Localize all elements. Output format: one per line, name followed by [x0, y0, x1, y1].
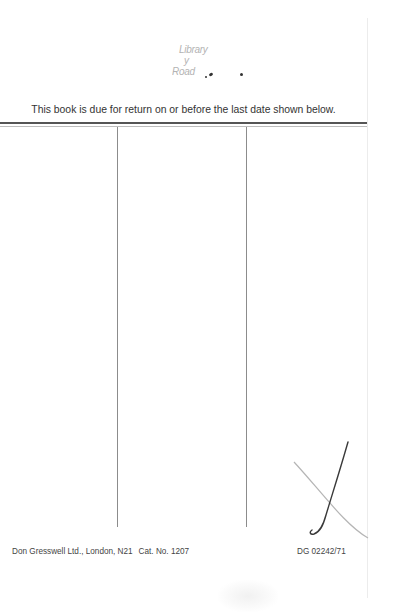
check-mark-icon — [290, 430, 370, 540]
catalogue-number: Cat. No. 1207 — [139, 547, 190, 556]
stamp-line: y — [184, 55, 230, 66]
column-divider — [117, 127, 118, 527]
ink-speck — [240, 73, 243, 76]
return-notice: This book is due for return on or before… — [0, 104, 367, 115]
form-code: DG 02242/71 — [297, 547, 346, 556]
stamp-line: Road — [172, 66, 230, 77]
column-divider — [246, 127, 247, 527]
ink-speck — [205, 76, 207, 78]
library-stamp: Library y Road — [170, 44, 230, 77]
publisher-imprint: Don Gresswell Ltd., London, N21Cat. No. … — [12, 547, 189, 556]
publisher-name: Don Gresswell Ltd., London, N21 — [12, 547, 133, 556]
header-rule-thin — [0, 126, 367, 127]
paper-smudge — [218, 580, 278, 612]
stamp-line: Library — [179, 44, 230, 55]
header-rule — [0, 122, 367, 124]
